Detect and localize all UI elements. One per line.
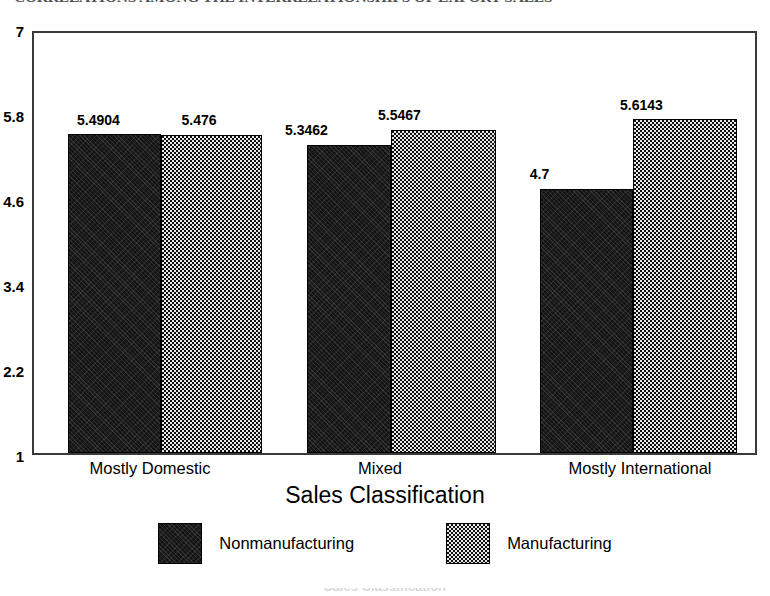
x-axis-label-mostly-domestic: Mostly Domestic xyxy=(35,460,265,477)
bar-mostly-domestic-manufacturing xyxy=(161,135,262,453)
y-axis-tick-4.6: 4.6 xyxy=(0,194,24,209)
bar-mixed-nonmanufacturing xyxy=(307,145,391,453)
value-label-mostly-international-nonmanufacturing: 4.7 xyxy=(477,167,602,181)
x-axis-label-mixed: Mixed xyxy=(290,460,470,477)
bar-mostly-international-nonmanufacturing xyxy=(540,189,633,453)
chart-title-cropped: CORRELATIONS AMONG THE INTERRELATIONSHIP… xyxy=(0,0,770,9)
y-axis-tick-1: 1 xyxy=(0,449,24,464)
chart-title-text: CORRELATIONS AMONG THE INTERRELATIONSHIP… xyxy=(14,0,764,6)
legend-item-manufacturing: Manufacturing xyxy=(446,523,612,564)
legend-swatch-nonmanufacturing-icon xyxy=(158,523,202,564)
chart-caption-text: Sales Classification xyxy=(0,588,770,594)
chart-caption-cropped: Sales Classification xyxy=(0,588,770,596)
legend-label-nonmanufacturing: Nonmanufacturing xyxy=(219,535,354,552)
legend-item-nonmanufacturing: Nonmanufacturing xyxy=(158,523,354,564)
bar-mostly-international-manufacturing xyxy=(633,119,737,453)
plot-area xyxy=(32,31,757,455)
value-label-mixed-nonmanufacturing: 5.3462 xyxy=(244,123,369,137)
y-axis-tick-3.4: 3.4 xyxy=(0,279,24,294)
value-label-mostly-international-manufacturing: 5.6143 xyxy=(579,98,704,112)
bar-chart-figure: CORRELATIONS AMONG THE INTERRELATIONSHIP… xyxy=(0,0,770,596)
x-axis-label-mostly-international: Mostly International xyxy=(520,460,760,477)
bar-mostly-domestic-nonmanufacturing xyxy=(68,134,161,453)
x-axis-title: Sales Classification xyxy=(0,484,770,507)
y-axis-tick-5.8: 5.8 xyxy=(0,109,24,124)
y-axis-tick-7: 7 xyxy=(0,24,24,39)
value-label-mostly-domestic-manufacturing: 5.476 xyxy=(139,113,259,127)
legend-swatch-manufacturing-icon xyxy=(446,523,490,564)
y-axis-tick-2.2: 2.2 xyxy=(0,364,24,379)
legend-label-manufacturing: Manufacturing xyxy=(507,535,612,552)
chart-legend: Nonmanufacturing Manufacturing xyxy=(0,523,770,564)
value-label-mixed-manufacturing: 5.5467 xyxy=(337,108,462,122)
